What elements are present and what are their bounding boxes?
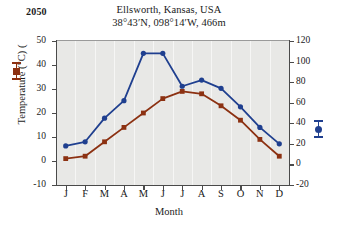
x-axis-tick-label: M bbox=[134, 188, 152, 199]
plot-frame-corner bbox=[289, 40, 290, 46]
data-point-temperature bbox=[219, 103, 224, 108]
x-axis-tick-label: A bbox=[115, 188, 133, 199]
chart-title-coordinates: 38°43′N, 098°14′W, 466m bbox=[0, 17, 338, 30]
data-point-temperature bbox=[277, 154, 282, 159]
data-point-precipitation bbox=[218, 86, 223, 91]
data-point-temperature bbox=[102, 139, 107, 144]
data-point-precipitation bbox=[102, 116, 107, 121]
x-axis-tick-label: O bbox=[231, 188, 249, 199]
data-point-temperature bbox=[141, 111, 146, 116]
y-axis-right-tick-label: 120 bbox=[296, 35, 322, 45]
x-axis-tick-label: S bbox=[212, 188, 230, 199]
data-point-temperature bbox=[83, 154, 88, 159]
y-axis-right-tick-label: 20 bbox=[296, 138, 322, 148]
y-axis-right-tick bbox=[290, 144, 294, 145]
data-point-precipitation bbox=[277, 141, 282, 146]
data-point-precipitation bbox=[257, 125, 262, 130]
x-axis-tick-label: J bbox=[154, 188, 172, 199]
y-axis-right-tick bbox=[290, 103, 294, 104]
data-point-precipitation bbox=[199, 77, 204, 82]
data-point-precipitation bbox=[83, 139, 88, 144]
chart-title-block: Ellsworth, Kansas, USA 38°43′N, 098°14′W… bbox=[0, 4, 338, 29]
data-point-precipitation bbox=[180, 84, 185, 89]
y-axis-right-tick-label: 100 bbox=[296, 56, 322, 66]
y-axis-right-tick-label: 60 bbox=[296, 97, 322, 107]
data-point-temperature bbox=[180, 89, 185, 94]
data-point-temperature bbox=[122, 125, 127, 130]
y-axis-right-tick-label: -20 bbox=[296, 179, 322, 189]
data-point-precipitation bbox=[141, 51, 146, 56]
y-axis-right-tick bbox=[290, 82, 294, 83]
x-axis-tick-label: D bbox=[270, 188, 288, 199]
plot-frame-bottom bbox=[56, 185, 290, 186]
x-axis-tick-label: M bbox=[96, 188, 114, 199]
x-axis-tick-label: A bbox=[193, 188, 211, 199]
chart-title-location: Ellsworth, Kansas, USA bbox=[0, 4, 338, 17]
plot-frame-corner bbox=[56, 40, 57, 46]
data-point-precipitation bbox=[238, 104, 243, 109]
data-point-temperature bbox=[199, 91, 204, 96]
series-line-precipitation bbox=[66, 53, 280, 146]
data-point-temperature bbox=[238, 118, 243, 123]
x-axis-title: Month bbox=[0, 206, 338, 217]
data-point-temperature bbox=[160, 96, 165, 101]
y-axis-left-tick bbox=[52, 185, 56, 186]
x-axis-tick-label: N bbox=[251, 188, 269, 199]
y-axis-right-tick bbox=[290, 123, 294, 124]
x-axis-tick-label: J bbox=[57, 188, 75, 199]
data-series-lines bbox=[56, 41, 289, 185]
x-axis-tick-label: F bbox=[76, 188, 94, 199]
data-point-temperature bbox=[257, 137, 262, 142]
y-axis-right-tick bbox=[290, 62, 294, 63]
y-axis-right-tick bbox=[290, 185, 294, 186]
series-line-temperature bbox=[66, 91, 280, 158]
data-point-temperature bbox=[63, 156, 68, 161]
data-point-precipitation bbox=[63, 143, 68, 148]
y-axis-right-tick-label: 0 bbox=[296, 158, 322, 168]
data-point-precipitation bbox=[121, 98, 126, 103]
climate-chart-figure: 2050 Ellsworth, Kansas, USA 38°43′N, 098… bbox=[0, 0, 338, 237]
y-axis-left-title: Temperature (°C) ( bbox=[16, 10, 27, 160]
y-axis-right-tick bbox=[290, 41, 294, 42]
data-point-precipitation bbox=[160, 51, 165, 56]
x-axis-tick-label: J bbox=[173, 188, 191, 199]
y-axis-left-tick-label: -10 bbox=[20, 179, 46, 189]
y-axis-right-tick bbox=[290, 164, 294, 165]
y-axis-right-tick-label: 80 bbox=[296, 76, 322, 86]
